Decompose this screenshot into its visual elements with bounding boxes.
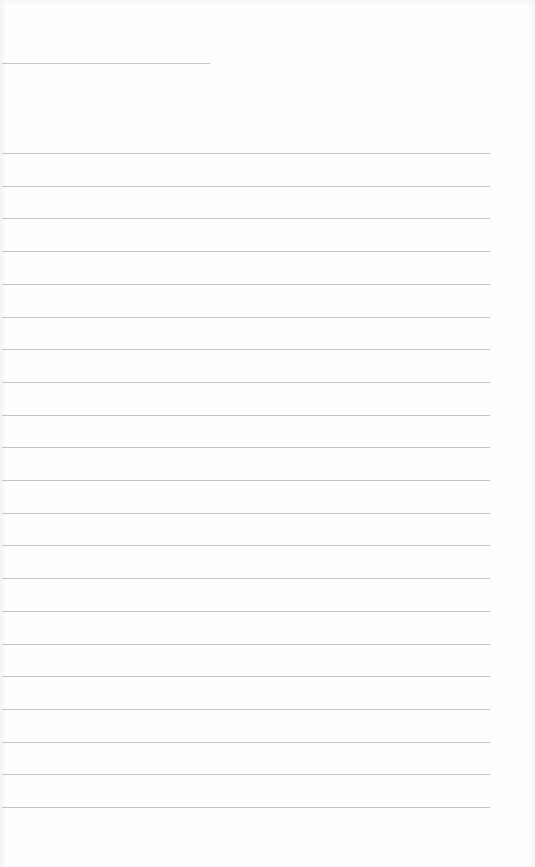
ruled-line — [2, 415, 490, 416]
ruled-line — [2, 218, 490, 219]
ruled-line — [2, 349, 490, 350]
ruled-line — [2, 545, 490, 546]
ruled-line — [2, 284, 490, 285]
header-title-line — [2, 63, 210, 64]
right-edge-shadow — [527, 0, 535, 867]
left-edge-shadow — [0, 0, 6, 867]
ruled-line — [2, 611, 490, 612]
ruled-line — [2, 807, 490, 808]
ruled-line — [2, 578, 490, 579]
ruled-line — [2, 774, 490, 775]
ruled-line — [2, 317, 490, 318]
ruled-line — [2, 447, 490, 448]
ruled-line — [2, 513, 490, 514]
ruled-line — [2, 382, 490, 383]
top-edge-bleed — [0, 0, 535, 5]
ruled-line — [2, 251, 490, 252]
ruled-line — [2, 742, 490, 743]
ruled-line — [2, 186, 490, 187]
ruled-line — [2, 644, 490, 645]
ruled-line — [2, 676, 490, 677]
ruled-line — [2, 709, 490, 710]
lined-paper-page — [0, 0, 535, 867]
ruled-line — [2, 480, 490, 481]
ruled-line — [2, 153, 490, 154]
